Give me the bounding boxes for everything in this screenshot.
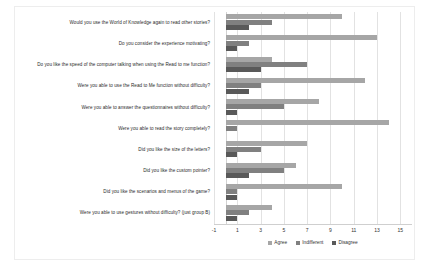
legend-item[interactable]: Indifferent	[296, 240, 323, 245]
row-bars	[214, 76, 412, 97]
bar-agree	[226, 205, 273, 210]
question-label: Were you able to read the story complete…	[16, 126, 214, 132]
chart-row: Were you able to use gestures without di…	[16, 203, 412, 224]
legend-swatch-icon	[332, 241, 336, 245]
legend-item[interactable]: Agree	[268, 240, 287, 245]
legend-label: Agree	[274, 240, 287, 245]
bar-agree	[226, 14, 342, 19]
row-bars	[214, 12, 412, 33]
bar-agree	[226, 163, 296, 168]
question-label: Were you able to use gestures without di…	[16, 210, 214, 216]
bar-disagree	[226, 67, 261, 72]
x-tick-label: 7	[306, 227, 309, 233]
row-bars	[214, 33, 412, 54]
question-label: Did you like the size of the letters?	[16, 147, 214, 153]
bar-agree	[226, 120, 389, 125]
chart-row: Would you use the World of Knowledge aga…	[16, 12, 412, 33]
chart-row: Were you able to read the story complete…	[16, 118, 412, 139]
bar-disagree	[226, 25, 249, 30]
chart-row: Were you able to answer the questionnair…	[16, 97, 412, 118]
bar-agree	[226, 57, 273, 62]
x-tick-label: 3	[259, 227, 262, 233]
x-tick-label: 15	[398, 227, 404, 233]
question-label: Did you like the scenarios and menus of …	[16, 189, 214, 195]
bar-indifferent	[226, 104, 284, 109]
question-label: Would you use the World of Knowledge aga…	[16, 20, 214, 26]
chart-row: Did you like the scenarios and menus of …	[16, 182, 412, 203]
x-tick-label: -1	[212, 227, 216, 233]
survey-bar-chart: Would you use the World of Knowledge aga…	[0, 0, 427, 274]
question-label: Were you able to use the Read to Me func…	[16, 83, 214, 89]
bar-agree	[226, 99, 319, 104]
row-bars	[214, 182, 412, 203]
chart-legend: AgreeIndifferentDisagree	[214, 240, 412, 245]
bar-indifferent	[226, 210, 249, 215]
row-bars	[214, 160, 412, 181]
bar-indifferent	[226, 189, 238, 194]
bar-disagree	[226, 46, 238, 51]
row-bars	[214, 97, 412, 118]
bar-indifferent	[226, 83, 261, 88]
legend-swatch-icon	[268, 241, 272, 245]
x-axis: -113579111315	[214, 224, 412, 236]
bar-disagree	[226, 195, 238, 200]
legend-swatch-icon	[296, 241, 300, 245]
bar-indifferent	[226, 147, 261, 152]
bar-disagree	[226, 173, 249, 178]
bar-indifferent	[226, 20, 273, 25]
row-bars	[214, 139, 412, 160]
bar-disagree	[226, 89, 249, 94]
bar-disagree	[226, 110, 238, 115]
row-bars	[214, 203, 412, 224]
bar-disagree	[226, 152, 238, 157]
question-label: Did you like the custom pointer?	[16, 168, 214, 174]
plot-area: Would you use the World of Knowledge aga…	[16, 8, 412, 266]
legend-item[interactable]: Disagree	[332, 240, 357, 245]
chart-row: Did you like the custom pointer?	[16, 160, 412, 181]
question-label: Were you able to answer the questionnair…	[16, 105, 214, 111]
question-label: Do you like the speed of the computer ta…	[16, 62, 214, 68]
chart-row: Do you consider the experience motivatin…	[16, 33, 412, 54]
legend-label: Disagree	[338, 240, 357, 245]
x-axis-line	[214, 224, 412, 225]
row-bars	[214, 118, 412, 139]
bar-agree	[226, 78, 366, 83]
bar-indifferent	[226, 126, 238, 131]
chart-row: Were you able to use the Read to Me func…	[16, 76, 412, 97]
x-tick-label: 5	[282, 227, 285, 233]
chart-rows: Would you use the World of Knowledge aga…	[16, 12, 412, 224]
x-tick-label: 13	[374, 227, 380, 233]
question-label: Do you consider the experience motivatin…	[16, 41, 214, 47]
bar-indifferent	[226, 41, 249, 46]
bar-agree	[226, 184, 342, 189]
x-tick-label: 1	[236, 227, 239, 233]
legend-label: Indifferent	[302, 240, 323, 245]
x-tick-label: 9	[329, 227, 332, 233]
chart-row: Do you like the speed of the computer ta…	[16, 54, 412, 75]
x-tick-label: 11	[351, 227, 356, 233]
bar-agree	[226, 35, 377, 40]
bar-agree	[226, 141, 308, 146]
bar-indifferent	[226, 62, 308, 67]
row-bars	[214, 54, 412, 75]
bar-indifferent	[226, 168, 284, 173]
chart-row: Did you like the size of the letters?	[16, 139, 412, 160]
bar-disagree	[226, 216, 238, 221]
